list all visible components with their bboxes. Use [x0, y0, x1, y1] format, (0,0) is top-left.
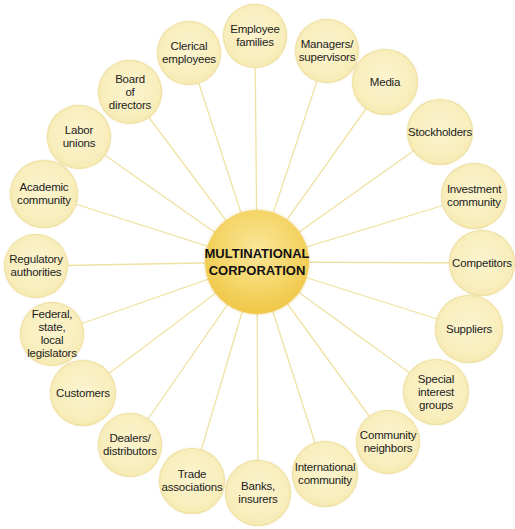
stakeholder-node: International community: [292, 441, 358, 507]
stakeholder-label: Managers/ supervisors: [299, 38, 356, 64]
stakeholder-label: Stockholders: [408, 126, 472, 139]
stakeholder-node: Managers/ supervisors: [295, 19, 359, 83]
stakeholder-label: Investment community: [447, 183, 501, 209]
stakeholder-label: Community neighbors: [360, 429, 416, 455]
stakeholder-label: Regulatory authorities: [9, 253, 63, 279]
hub-label: MULTINATIONAL CORPORATION: [205, 245, 310, 279]
stakeholder-node: Federal, state, local legislators: [20, 302, 84, 366]
stakeholder-node: Trade associations: [159, 448, 225, 514]
stakeholder-node: Competitors: [449, 230, 515, 296]
stakeholder-node: Special interest groups: [403, 359, 469, 425]
stakeholder-label: Clerical employees: [162, 40, 216, 66]
stakeholder-label: Customers: [56, 387, 110, 400]
stakeholder-label: Employee families: [230, 23, 280, 49]
hub-multinational-corporation: MULTINATIONAL CORPORATION: [205, 210, 309, 314]
stakeholder-node: Media: [352, 49, 418, 115]
stakeholder-node: Banks, insurers: [225, 460, 291, 526]
stakeholder-node: Suppliers: [435, 295, 503, 363]
stakeholder-label: International community: [295, 461, 356, 487]
stakeholder-node: Regulatory authorities: [4, 234, 68, 298]
stakeholder-node: Dealers/ distributors: [98, 413, 162, 477]
stakeholder-label: Special interest groups: [418, 373, 454, 412]
stakeholder-node: Employee families: [223, 4, 287, 68]
stakeholder-label: Board of directors: [109, 73, 151, 112]
stakeholder-label: Trade associations: [162, 468, 223, 494]
stakeholder-label: Suppliers: [446, 323, 492, 336]
stakeholder-label: Media: [370, 76, 400, 89]
stakeholder-node: Labor unions: [47, 105, 111, 169]
stakeholder-label: Labor unions: [63, 124, 96, 150]
stakeholder-node: Investment community: [441, 163, 507, 229]
stakeholder-label: Academic community: [17, 181, 71, 207]
stakeholder-label: Dealers/ distributors: [103, 432, 157, 458]
stakeholder-node: Academic community: [10, 160, 78, 228]
stakeholder-node: Customers: [50, 360, 116, 426]
stakeholder-node: Stockholders: [407, 99, 473, 165]
stakeholder-label: Federal, state, local legislators: [27, 308, 77, 360]
stakeholder-label: Competitors: [452, 257, 512, 270]
stakeholder-label: Banks, insurers: [238, 480, 277, 506]
stakeholder-node: Board of directors: [98, 60, 162, 124]
stakeholder-node: Clerical employees: [157, 21, 221, 85]
stakeholder-node: Community neighbors: [356, 410, 420, 474]
